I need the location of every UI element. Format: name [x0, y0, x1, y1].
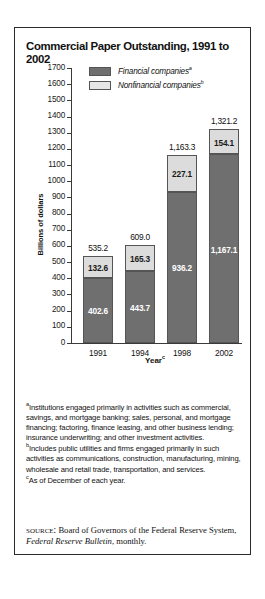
bar-segment-nonfinancial[interactable]: 154.1	[209, 129, 239, 154]
bar-segment-financial[interactable]: 443.7	[125, 271, 155, 343]
footnotes: aInstitutions engaged primarily in activ…	[26, 403, 241, 487]
y-tick-mark	[67, 84, 71, 85]
y-axis-title: Billions of dollars	[36, 170, 45, 280]
source-publication: Federal Reserve Bulletin	[26, 536, 112, 546]
y-tick-label: 100	[52, 321, 65, 330]
y-tick-mark	[67, 214, 71, 215]
bar-total-label: 609.0	[115, 232, 165, 242]
footnote-text: Includes public utilities and firms enga…	[26, 444, 241, 473]
bar-total-label: 1,163.3	[157, 142, 207, 152]
bar-total-label: 1,321.2	[199, 116, 249, 126]
y-tick-label: 1700	[48, 63, 65, 72]
footnote-text: As of December of each year.	[29, 476, 126, 485]
bar-value-financial: 443.7	[126, 303, 154, 313]
y-tick-label: 1300	[48, 127, 65, 136]
y-tick-mark	[67, 149, 71, 150]
y-tick-label: 500	[52, 257, 65, 266]
y-tick-mark	[67, 197, 71, 198]
y-tick-label: 300	[52, 289, 65, 298]
y-tick-mark	[67, 311, 71, 312]
y-tick-mark	[67, 327, 71, 328]
chart-area: Billions of dollars Financial companiesa…	[15, 60, 251, 400]
y-tick-label: 900	[52, 192, 65, 201]
bar-group[interactable]: 402.6132.6535.21991	[83, 68, 113, 343]
y-tick-label: 1100	[48, 160, 65, 169]
bar-value-nonfinancial: 227.1	[168, 169, 196, 179]
y-tick-mark	[67, 246, 71, 247]
bar-value-financial: 1,167.1	[210, 245, 238, 255]
y-tick-mark	[67, 230, 71, 231]
footnote: aInstitutions engaged primarily in activ…	[26, 403, 241, 443]
plot-region: 0100200300400500600700800900100011001200…	[71, 68, 239, 343]
bar-group[interactable]: 443.7165.3609.01994	[125, 68, 155, 343]
source-note: source: Board of Governors of the Federa…	[26, 525, 241, 547]
y-tick-label: 0	[61, 338, 65, 347]
bar-segment-nonfinancial[interactable]: 227.1	[167, 155, 197, 192]
source-label: source:	[26, 525, 56, 535]
bar-value-financial: 402.6	[84, 306, 112, 316]
x-axis-line	[71, 343, 242, 344]
bar-group[interactable]: 936.2227.11,163.31998	[167, 68, 197, 343]
y-tick-mark	[67, 278, 71, 279]
bar-segment-financial[interactable]: 1,167.1	[209, 154, 239, 343]
bar-total-label: 535.2	[73, 243, 123, 253]
bar-value-nonfinancial: 154.1	[210, 138, 238, 148]
y-tick-label: 1000	[48, 176, 65, 185]
bar-segment-financial[interactable]: 936.2	[167, 192, 197, 343]
y-tick-label: 800	[52, 208, 65, 217]
footnote: cAs of December of each year.	[26, 476, 241, 486]
source-text-before: Board of Governors of the Federal Reserv…	[56, 525, 236, 535]
bar-value-nonfinancial: 165.3	[126, 254, 154, 264]
y-tick-mark	[67, 117, 71, 118]
footnote-text: Institutions engaged primarily in activi…	[26, 403, 234, 442]
y-tick-mark	[67, 133, 71, 134]
y-tick-label: 400	[52, 273, 65, 282]
x-axis-title: Yearc	[71, 356, 239, 365]
bar-segment-nonfinancial[interactable]: 132.6	[83, 256, 113, 277]
figure-panel: Commercial Paper Outstanding, 1991 to 20…	[14, 27, 251, 555]
source-text-after: , monthly.	[112, 536, 147, 546]
bar-group[interactable]: 1,167.1154.11,321.22002	[209, 68, 239, 343]
footnote: bIncludes public utilities and firms eng…	[26, 444, 241, 474]
y-tick-label: 700	[52, 224, 65, 233]
bar-value-financial: 936.2	[168, 263, 196, 273]
y-tick-label: 1600	[48, 79, 65, 88]
y-tick-mark	[67, 262, 71, 263]
y-tick-mark	[67, 343, 71, 344]
y-tick-mark	[67, 165, 71, 166]
y-tick-mark	[67, 181, 71, 182]
y-tick-label: 1400	[48, 111, 65, 120]
y-tick-label: 200	[52, 305, 65, 314]
y-tick-mark	[67, 100, 71, 101]
y-tick-mark	[67, 294, 71, 295]
y-axis-line	[71, 68, 72, 343]
y-tick-label: 600	[52, 240, 65, 249]
bar-segment-financial[interactable]: 402.6	[83, 278, 113, 343]
bar-value-nonfinancial: 132.6	[84, 263, 112, 273]
y-tick-mark	[67, 68, 71, 69]
y-tick-label: 1500	[48, 95, 65, 104]
bar-segment-nonfinancial[interactable]: 165.3	[125, 245, 155, 272]
y-tick-label: 1200	[48, 143, 65, 152]
